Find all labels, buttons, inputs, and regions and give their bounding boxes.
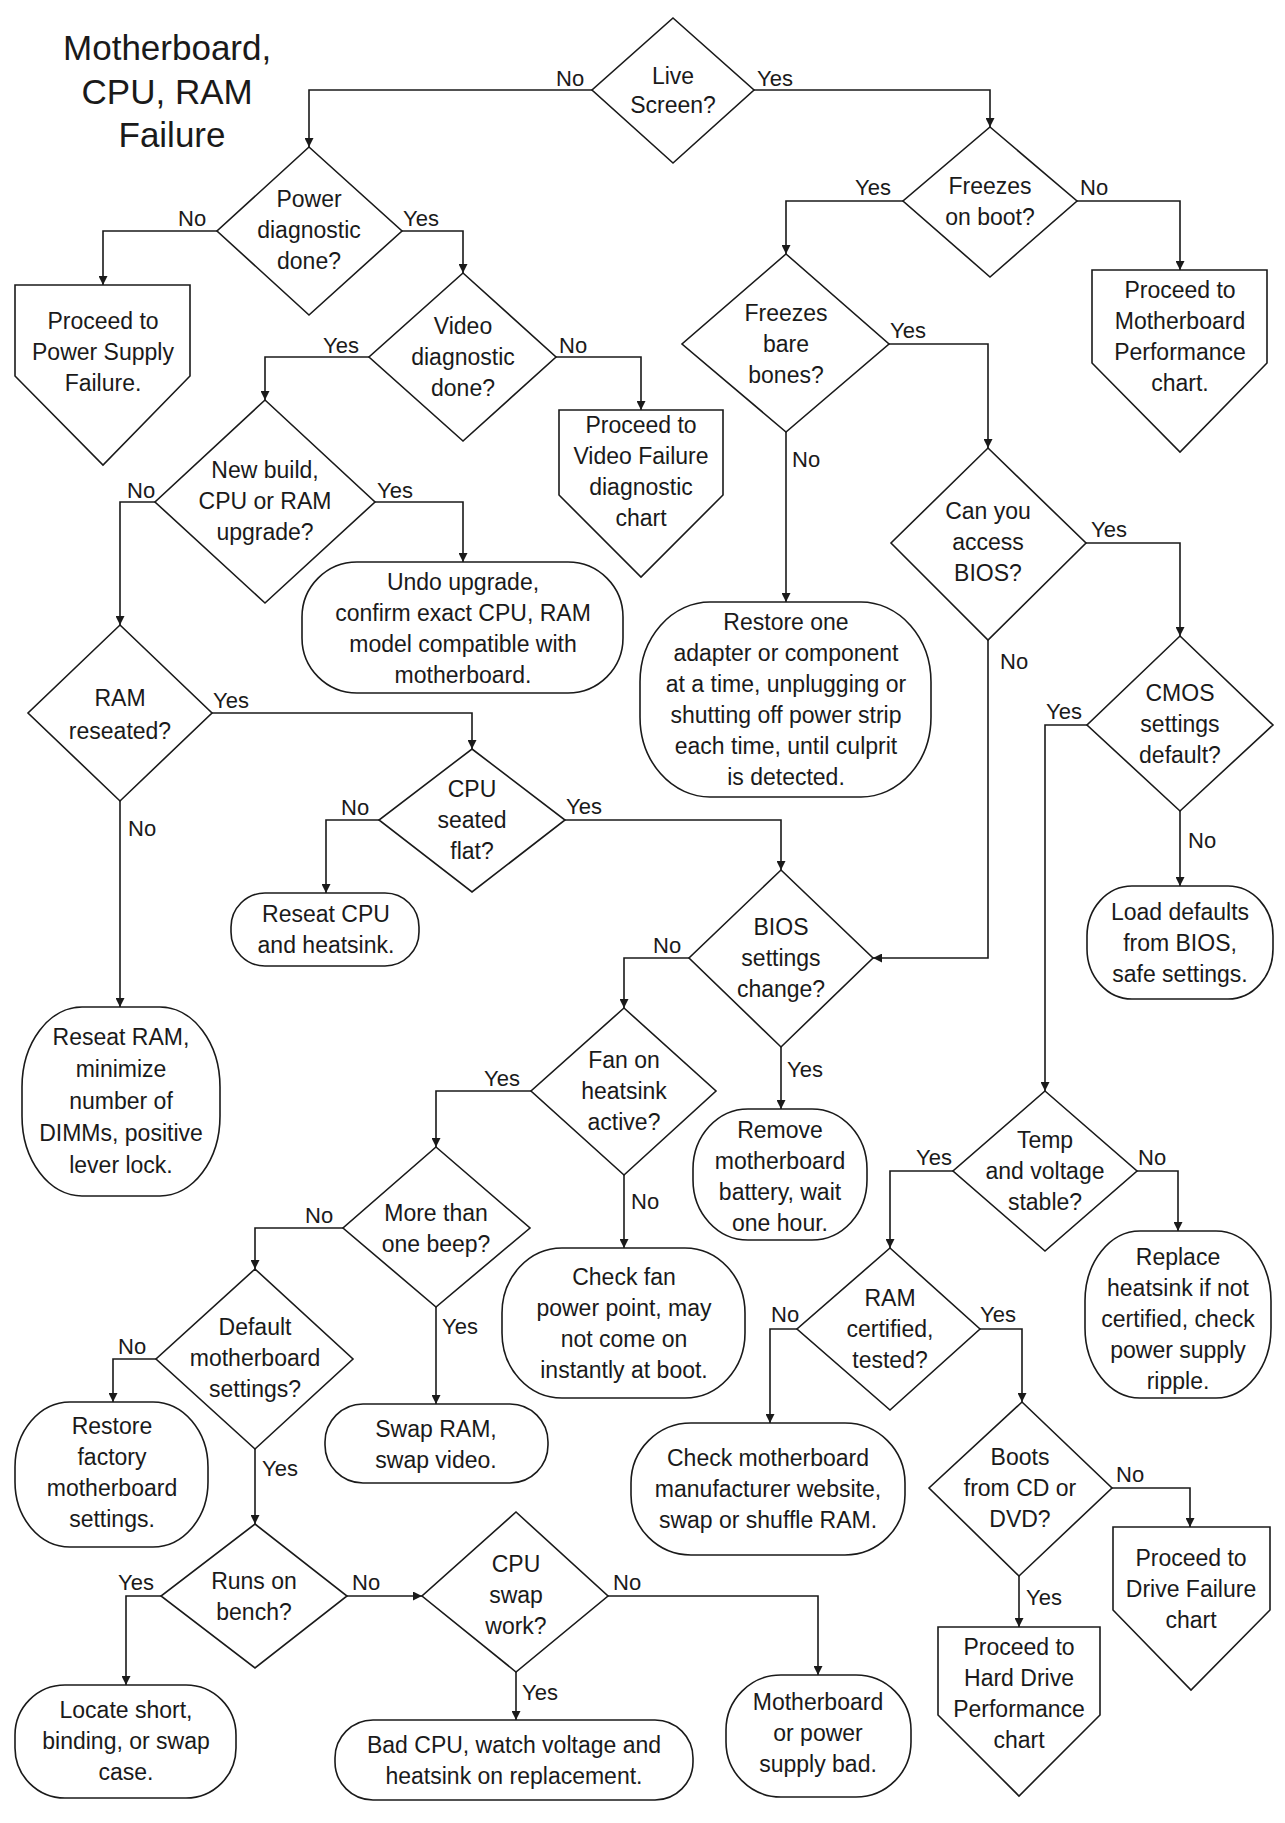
label-yes: Yes xyxy=(118,1570,154,1595)
decision-live-screen: LiveScreen? xyxy=(592,18,754,163)
label-no: No xyxy=(1188,828,1216,853)
decision-temp-voltage: Tempand voltagestable? xyxy=(953,1091,1137,1251)
svg-text:CPUswapwork?: CPUswapwork? xyxy=(484,1551,546,1639)
label-no: No xyxy=(1138,1145,1166,1170)
offpage-video-failure[interactable]: Proceed toVideo Failurediagnosticchart xyxy=(559,410,723,577)
offpage-hard-drive-performance[interactable]: Proceed toHard DrivePerformancechart xyxy=(938,1627,1100,1796)
action-check-motherboard-site: Check motherboardmanufacturer website,sw… xyxy=(631,1423,905,1555)
action-load-defaults: Load defaultsfrom BIOS,safe settings. xyxy=(1087,886,1273,999)
action-reseat-cpu: Reseat CPUand heatsink. xyxy=(231,893,419,966)
action-swap-ram-video: Swap RAM,swap video. xyxy=(325,1404,548,1483)
label-no: No xyxy=(1080,175,1108,200)
label-yes: Yes xyxy=(566,794,602,819)
label-yes: Yes xyxy=(890,318,926,343)
decision-bios-settings-change: BIOSsettingschange? xyxy=(689,870,873,1047)
action-restore-one-component: Restore oneadapter or componentat a time… xyxy=(640,602,931,797)
decision-boots-from-cd: Bootsfrom CD orDVD? xyxy=(929,1402,1112,1576)
chart-title: Motherboard, CPU, RAM Failure xyxy=(63,28,281,154)
svg-text:CMOSsettingsdefault?: CMOSsettingsdefault? xyxy=(1139,680,1221,768)
action-bad-cpu: Bad CPU, watch voltage andheatsink on re… xyxy=(335,1720,693,1800)
label-yes: Yes xyxy=(442,1314,478,1339)
action-replace-heatsink: Replaceheatsink if notcertified, checkpo… xyxy=(1085,1231,1271,1398)
label-yes: Yes xyxy=(1091,517,1127,542)
label-no: No xyxy=(613,1570,641,1595)
label-no: No xyxy=(127,478,155,503)
decision-freezes-bare-bones: Freezesbarebones? xyxy=(682,254,889,432)
label-no: No xyxy=(352,1570,380,1595)
decision-more-than-one-beep: More thanone beep? xyxy=(343,1147,530,1307)
action-reseat-ram: Reseat RAM,minimizenumber ofDIMMs, posit… xyxy=(22,1007,220,1196)
label-yes: Yes xyxy=(1046,699,1082,724)
label-no: No xyxy=(559,333,587,358)
label-no: No xyxy=(556,66,584,91)
flowchart-canvas: Motherboard, CPU, RAM Failure xyxy=(0,0,1285,1823)
label-yes: Yes xyxy=(262,1456,298,1481)
label-no: No xyxy=(792,447,820,472)
label-yes: Yes xyxy=(403,206,439,231)
decision-ram-reseated: RAMreseated? xyxy=(28,625,212,801)
label-yes: Yes xyxy=(213,688,249,713)
decision-cmos-default: CMOSsettingsdefault? xyxy=(1087,636,1273,811)
action-locate-short: Locate short,binding, or swapcase. xyxy=(15,1685,236,1798)
decision-runs-on-bench: Runs onbench? xyxy=(161,1524,347,1668)
label-no: No xyxy=(118,1334,146,1359)
label-no: No xyxy=(653,933,681,958)
svg-text:Fan onheatsinkactive?: Fan onheatsinkactive? xyxy=(581,1047,667,1135)
action-check-fan: Check fanpower point, maynot come oninst… xyxy=(502,1248,745,1398)
action-restore-factory-settings: Restorefactorymotherboardsettings. xyxy=(15,1402,208,1547)
decision-cpu-swap-work: CPUswapwork? xyxy=(422,1512,608,1672)
svg-text:Check motherboardmanufacturer: Check motherboardmanufacturer website,sw… xyxy=(655,1445,881,1533)
offpage-power-supply-failure[interactable]: Proceed toPower SupplyFailure. xyxy=(15,285,190,465)
label-yes: Yes xyxy=(980,1302,1016,1327)
label-no: No xyxy=(631,1189,659,1214)
decision-video-diagnostic: Videodiagnosticdone? xyxy=(369,273,556,441)
decision-freezes-on-boot: Freezeson boot? xyxy=(903,127,1077,277)
offpage-drive-failure[interactable]: Proceed toDrive Failurechart xyxy=(1113,1527,1270,1690)
label-yes: Yes xyxy=(323,333,359,358)
decision-power-diagnostic: Powerdiagnosticdone? xyxy=(217,147,402,315)
label-no: No xyxy=(341,795,369,820)
decision-ram-certified: RAMcertified,tested? xyxy=(797,1248,980,1410)
svg-text:Load defaultsfrom BIOS,safe se: Load defaultsfrom BIOS,safe settings. xyxy=(1111,899,1249,987)
decision-access-bios: Can youaccessBIOS? xyxy=(891,448,1086,640)
svg-text:Can youaccessBIOS?: Can youaccessBIOS? xyxy=(945,498,1031,586)
label-yes: Yes xyxy=(787,1057,823,1082)
decision-cpu-seated: CPUseatedflat? xyxy=(379,749,565,892)
label-yes: Yes xyxy=(522,1680,558,1705)
label-no: No xyxy=(128,816,156,841)
label-no: No xyxy=(771,1302,799,1327)
label-yes: Yes xyxy=(916,1145,952,1170)
label-no: No xyxy=(305,1203,333,1228)
action-undo-upgrade: Undo upgrade,confirm exact CPU, RAMmodel… xyxy=(302,562,623,693)
decision-fan-active: Fan onheatsinkactive? xyxy=(531,1008,716,1175)
label-yes: Yes xyxy=(1026,1585,1062,1610)
label-no: No xyxy=(178,206,206,231)
label-yes: Yes xyxy=(377,478,413,503)
label-yes: Yes xyxy=(484,1066,520,1091)
label-yes: Yes xyxy=(757,66,793,91)
offpage-motherboard-performance[interactable]: Proceed toMotherboardPerformancechart. xyxy=(1092,270,1267,452)
action-remove-battery: Removemotherboardbattery, waitone hour. xyxy=(693,1109,867,1240)
label-no: No xyxy=(1000,649,1028,674)
svg-text:New build,CPU or RAMupgrade?: New build,CPU or RAMupgrade? xyxy=(199,457,332,545)
label-yes: Yes xyxy=(855,175,891,200)
label-no: No xyxy=(1116,1462,1144,1487)
action-motherboard-or-power-supply-bad: Motherboardor powersupply bad. xyxy=(726,1675,911,1797)
